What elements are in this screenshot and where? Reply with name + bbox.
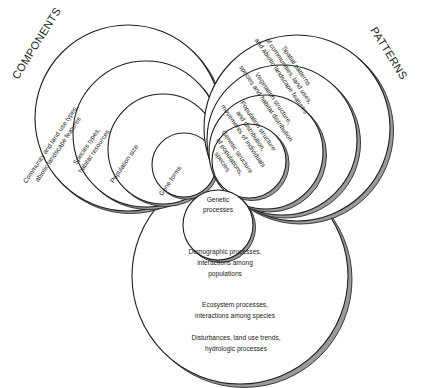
processes-label-line: processes — [203, 206, 234, 214]
processes-label-line: Genetic — [207, 196, 230, 203]
processes-label-line: hydrologic processes — [205, 345, 268, 353]
processes-label-line: Disturbances, land use trends, — [191, 334, 280, 341]
processes-label-line: interactions among — [197, 259, 253, 267]
diagram-canvas: Community and land use types,abiotic lan… — [0, 0, 429, 388]
processes-label-line: interactions among species — [195, 312, 276, 320]
processes-label-line: Demographic processes, — [189, 248, 262, 256]
processes-label-line: populations — [208, 270, 242, 278]
processes-label-line: Ecosystem processes, — [202, 301, 268, 309]
hierarchy-diagram: Community and land use types,abiotic lan… — [0, 0, 429, 388]
patterns-title: PATTERNS — [368, 25, 410, 82]
